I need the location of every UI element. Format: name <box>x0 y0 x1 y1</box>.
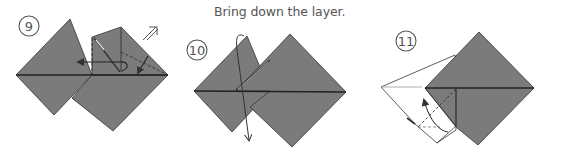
step-10-number: 10 <box>189 43 206 58</box>
step-10-diagram: 10 <box>187 34 346 147</box>
step-10-number-badge: 10 <box>187 40 207 60</box>
step-9-diagram: 9 <box>16 16 168 131</box>
step-9-number: 9 <box>25 19 33 34</box>
step-11-number-badge: 11 <box>396 31 416 51</box>
step-9-number-badge: 9 <box>19 16 39 36</box>
step-11-number: 11 <box>398 34 415 49</box>
push-arrow-icon <box>143 27 158 40</box>
step-11-diagram: 11 <box>381 31 534 145</box>
step-9-right-square <box>72 75 168 131</box>
